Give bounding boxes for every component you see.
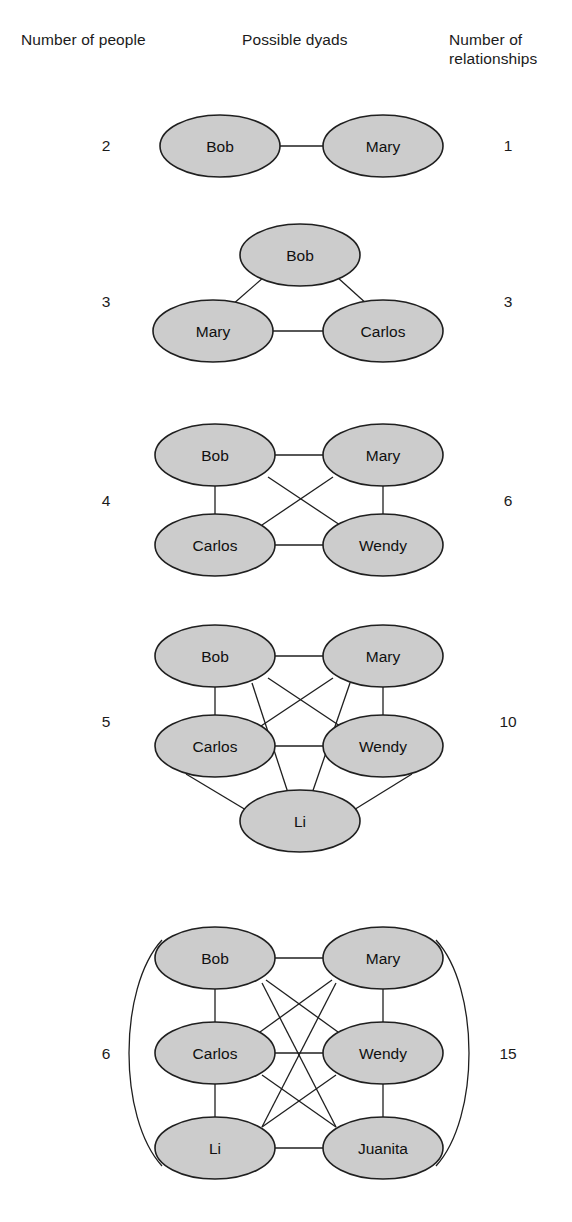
column-header-number-of-relationships: Number of relationships — [449, 30, 537, 68]
node-label-carlos: Carlos — [193, 537, 238, 554]
dyad-graph-2-people: Bob Mary — [0, 100, 572, 200]
node-label-mary: Mary — [366, 648, 401, 665]
edge-bob-wendy — [268, 678, 340, 726]
node-label-mary: Mary — [366, 138, 401, 155]
dyad-graph-3-people: Bob Mary Carlos — [0, 215, 572, 375]
edge-bob-mary — [232, 277, 264, 305]
dyad-graph-4-people: Bob Mary Carlos Wendy — [0, 415, 572, 590]
edge-mary-carlos — [260, 980, 332, 1032]
node-label-bob: Bob — [206, 138, 234, 155]
dyad-graph-5-people: Bob Mary Carlos Wendy Li — [0, 615, 572, 860]
node-label-bob: Bob — [201, 447, 229, 464]
node-label-li: Li — [209, 1140, 221, 1157]
node-label-carlos: Carlos — [361, 323, 406, 340]
node-label-wendy: Wendy — [359, 537, 407, 554]
dyads-figure: Number of people Possible dyads Number o… — [0, 0, 572, 1222]
node-label-bob: Bob — [201, 950, 229, 967]
node-label-wendy: Wendy — [359, 738, 407, 755]
column-header-possible-dyads: Possible dyads — [242, 30, 348, 49]
node-label-carlos: Carlos — [193, 738, 238, 755]
column-header-number-of-people: Number of people — [21, 30, 146, 49]
node-label-mary: Mary — [366, 447, 401, 464]
node-label-carlos: Carlos — [193, 1045, 238, 1062]
edge-bob-wendy — [268, 477, 340, 525]
node-label-wendy: Wendy — [359, 1045, 407, 1062]
node-label-juanita: Juanita — [358, 1140, 408, 1157]
dyad-graph-6-people: Bob Mary Carlos Wendy Li Juanita — [0, 918, 572, 1210]
edge-mary-carlos — [262, 477, 333, 525]
node-label-li: Li — [294, 813, 306, 830]
node-label-bob: Bob — [286, 247, 314, 264]
node-label-mary: Mary — [366, 950, 401, 967]
edge-bob-wendy — [266, 980, 338, 1032]
node-label-mary: Mary — [196, 323, 231, 340]
edge-mary-carlos — [261, 678, 333, 726]
node-label-bob: Bob — [201, 648, 229, 665]
